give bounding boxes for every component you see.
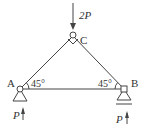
angle-arc-a-icon (26, 83, 29, 89)
arrowhead-down-icon (70, 23, 76, 30)
label-a: A (7, 77, 15, 89)
truss-diagram: C 2P A 45° B 45° P P (0, 0, 147, 134)
hinge-b-icon (121, 86, 127, 92)
hinge-c-icon (70, 32, 76, 38)
hinge-a-icon (17, 86, 23, 92)
node-b: B 45° (98, 77, 138, 104)
load-arrow-2p: 2P (70, 3, 92, 30)
reaction-b: P (115, 111, 129, 125)
label-b: B (131, 77, 138, 89)
label-c: C (80, 34, 87, 46)
arrowhead-up-icon (21, 107, 25, 114)
arrowhead-up-icon (125, 111, 129, 118)
label-load: 2P (79, 9, 92, 21)
label-reaction-a: P (12, 109, 20, 121)
node-c: C (68, 32, 87, 46)
label-reaction-b: P (115, 113, 123, 125)
angle-a-label: 45° (31, 78, 45, 89)
angle-arc-b-icon (115, 83, 118, 89)
angle-b-label: 45° (98, 78, 112, 89)
reaction-a: P (12, 107, 25, 121)
member-ac (20, 36, 73, 89)
